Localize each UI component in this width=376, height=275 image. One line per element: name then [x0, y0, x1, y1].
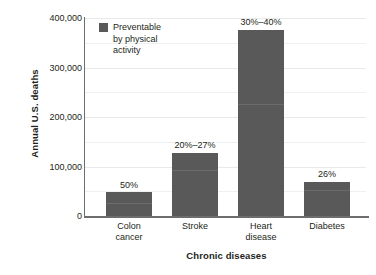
x-tick-heart-disease-line1: Heart — [235, 221, 287, 232]
y-axis-line — [84, 17, 85, 217]
y-axis-ticks: 400,000 300,000 200,000 100,000 0 — [0, 0, 82, 275]
bar-group-diabetes[interactable]: 26% — [301, 18, 353, 216]
bar-heart-disease[interactable] — [238, 30, 284, 216]
bar-colon-cancer[interactable] — [106, 192, 152, 216]
legend-swatch-preventable — [99, 23, 108, 32]
segment-divider-colon-cancer — [106, 203, 152, 204]
bar-label-colon-cancer: 50% — [103, 180, 155, 190]
x-tick-diabetes: Diabetes — [297, 221, 357, 232]
x-tick-colon-cancer: Colon cancer — [103, 221, 155, 243]
x-axis-title: Chronic diseases — [84, 250, 369, 261]
x-tick-colon-cancer-line1: Colon — [103, 221, 155, 232]
x-tick-stroke-line1: Stroke — [169, 221, 221, 232]
segment-divider-stroke — [172, 170, 218, 171]
bar-chart: Annual U.S. deaths 50% 20%–27% 30%–40% — [0, 0, 376, 275]
bar-stroke[interactable] — [172, 153, 218, 216]
y-tick-200000: 200,000 — [4, 113, 82, 122]
y-tick-100000: 100,000 — [4, 163, 82, 172]
bar-label-stroke: 20%–27% — [169, 140, 221, 150]
x-tick-stroke: Stroke — [169, 221, 221, 232]
bar-diabetes[interactable] — [304, 182, 350, 216]
bar-label-diabetes: 26% — [301, 169, 353, 179]
x-axis-line — [84, 216, 369, 218]
segment-divider-diabetes — [304, 190, 350, 191]
legend-label-line3: activity — [113, 45, 161, 57]
bar-label-heart-disease: 30%–40% — [235, 17, 287, 27]
legend-label-preventable: Preventable by physical activity — [113, 22, 161, 57]
x-tick-heart-disease: Heart disease — [235, 221, 287, 243]
x-tick-heart-disease-line2: disease — [235, 232, 287, 243]
legend-label-line1: Preventable — [113, 22, 161, 34]
y-tick-400000: 400,000 — [4, 14, 82, 23]
x-tick-colon-cancer-line2: cancer — [103, 232, 155, 243]
segment-divider-heart-disease — [238, 104, 284, 105]
bar-group-stroke[interactable]: 20%–27% — [169, 18, 221, 216]
y-tick-300000: 300,000 — [4, 64, 82, 73]
bar-group-heart-disease[interactable]: 30%–40% — [235, 18, 287, 216]
legend: Preventable by physical activity — [99, 22, 161, 57]
x-tick-diabetes-line1: Diabetes — [297, 221, 357, 232]
y-tick-0: 0 — [4, 212, 82, 221]
legend-label-line2: by physical — [113, 34, 161, 46]
